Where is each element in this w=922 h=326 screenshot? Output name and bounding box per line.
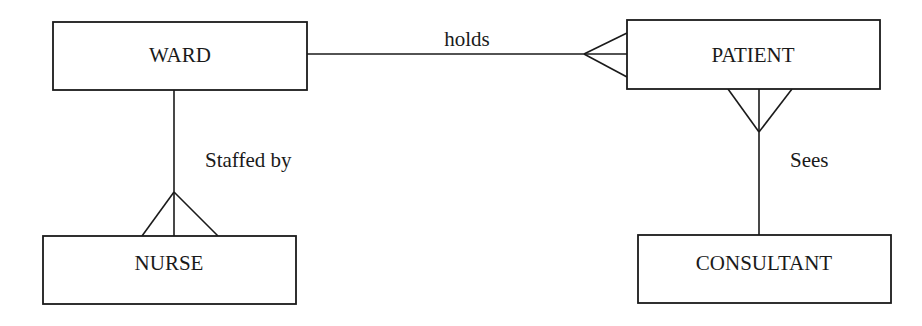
- holds-label: holds: [444, 27, 490, 51]
- entity-patient: PATIENT: [627, 20, 880, 89]
- relationship-holds: holds: [307, 27, 627, 77]
- staffed-by-label: Staffed by: [205, 148, 292, 172]
- entity-label: PATIENT: [711, 43, 794, 67]
- relationship-staffed-by: Staffed by: [142, 90, 292, 236]
- entity-consultant: CONSULTANT: [638, 235, 891, 303]
- entity-label: WARD: [149, 43, 211, 67]
- sees-label: Sees: [790, 148, 829, 172]
- crows-foot-icon: [584, 33, 627, 77]
- entity-label: NURSE: [135, 251, 204, 275]
- crows-foot-icon: [728, 89, 792, 132]
- entity-nurse: NURSE: [43, 236, 296, 304]
- er-diagram: holds Staffed by Sees WARD PATIENT NURSE…: [0, 0, 922, 326]
- crows-foot-icon: [142, 192, 218, 236]
- entity-label: CONSULTANT: [696, 251, 833, 275]
- entity-ward: WARD: [53, 22, 307, 90]
- relationship-sees: Sees: [728, 89, 829, 235]
